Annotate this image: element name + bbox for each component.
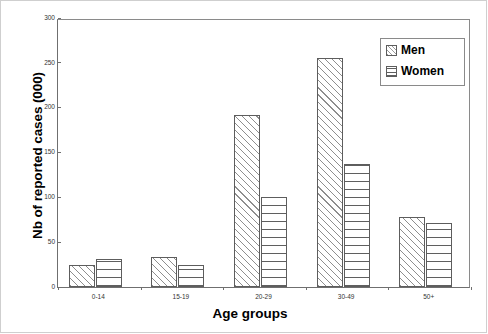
x-tick-label: 20-29 bbox=[255, 293, 272, 300]
y-tick-mark bbox=[58, 18, 61, 19]
bar-20-29-women bbox=[261, 197, 287, 287]
y-tick-label: 200 bbox=[44, 104, 58, 111]
x-tick-label: 30-49 bbox=[338, 293, 355, 300]
bar-30-49-women bbox=[344, 164, 370, 287]
x-axis-title: Age groups bbox=[150, 306, 350, 321]
x-tick-mark bbox=[471, 287, 472, 290]
bar-20-29-men bbox=[234, 115, 260, 287]
x-tick-mark bbox=[388, 287, 389, 290]
y-tick-mark bbox=[58, 242, 61, 243]
x-tick-mark bbox=[306, 287, 307, 290]
y-tick-label: 100 bbox=[44, 194, 58, 201]
x-tick-mark bbox=[58, 287, 59, 290]
y-tick-label: 50 bbox=[48, 239, 58, 246]
legend-label-women: Women bbox=[401, 65, 444, 77]
x-tick-label: 0-14 bbox=[92, 293, 105, 300]
bar-15-19-men bbox=[151, 257, 177, 287]
legend: Men Women bbox=[380, 38, 465, 86]
bar-0-14-men bbox=[69, 265, 95, 287]
y-tick-mark bbox=[58, 197, 61, 198]
y-tick-label: 0 bbox=[51, 284, 58, 291]
bar-15-19-women bbox=[178, 265, 204, 287]
y-tick-label: 250 bbox=[44, 60, 58, 67]
bar-0-14-women bbox=[96, 259, 122, 287]
bar-30-49-men bbox=[317, 58, 343, 287]
legend-swatch-women-icon bbox=[386, 66, 397, 77]
bar-50plus-women bbox=[426, 223, 452, 287]
x-tick-label: 15-19 bbox=[173, 293, 190, 300]
y-axis-title: Nb of reported cases (000) bbox=[30, 26, 45, 286]
y-tick-mark bbox=[58, 107, 61, 108]
x-tick-mark bbox=[141, 287, 142, 290]
y-tick-mark bbox=[58, 62, 61, 63]
legend-swatch-men-icon bbox=[386, 45, 397, 56]
legend-item-women[interactable]: Women bbox=[386, 65, 444, 77]
x-tick-label: 50+ bbox=[423, 293, 434, 300]
x-tick-mark bbox=[223, 287, 224, 290]
legend-item-men[interactable]: Men bbox=[386, 44, 425, 56]
chart-figure: Nb of reported cases (000) Age groups 05… bbox=[0, 0, 488, 334]
legend-label-men: Men bbox=[401, 44, 425, 56]
bar-50plus-men bbox=[399, 217, 425, 287]
y-tick-mark bbox=[58, 152, 61, 153]
y-tick-label: 150 bbox=[44, 149, 58, 156]
y-tick-label: 300 bbox=[44, 15, 58, 22]
